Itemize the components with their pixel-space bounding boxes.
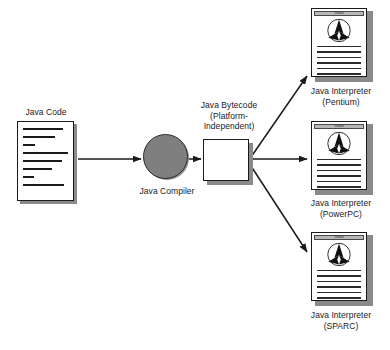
code-line	[23, 160, 62, 162]
window-title-bar: Window	[314, 235, 364, 240]
pentium-label-line1: Java Interpreter	[292, 86, 390, 97]
java-code-label: Java Code	[18, 107, 74, 118]
code-line	[23, 176, 34, 178]
java-bytecode-box	[203, 139, 253, 185]
code-line	[23, 136, 55, 138]
window-text-line	[317, 181, 361, 182]
window-title-bar: Window	[314, 124, 364, 129]
code-line	[23, 184, 64, 186]
java-bytecode-label: Java Bytecode (Platform- Independent)	[181, 100, 277, 132]
circle-body	[143, 134, 188, 179]
window-text-line	[317, 51, 361, 52]
window-text-line	[317, 281, 361, 282]
java-triangle-logo-icon	[325, 131, 353, 156]
window-text-line	[317, 164, 361, 165]
window-title-text: Window	[334, 236, 343, 240]
bytecode-label-line3: Independent)	[181, 121, 277, 132]
window-title-text: Window	[334, 125, 343, 129]
window-text-line	[317, 275, 361, 276]
java-triangle-logo-icon	[325, 18, 353, 43]
interpreter-pentium-label: Java Interpreter (Pentium)	[292, 86, 390, 107]
diagram-canvas: Java Code Java Compiler Java Bytecode (P…	[0, 0, 390, 350]
window-body: Window	[311, 8, 367, 77]
code-line	[23, 128, 63, 130]
sparc-label-line1: Java Interpreter	[292, 310, 390, 321]
window-text-line	[317, 286, 361, 287]
window-title-bar: Window	[314, 11, 364, 16]
interpreter-sparc-label: Java Interpreter (SPARC)	[292, 310, 390, 331]
window-text-line	[317, 186, 361, 187]
window-text-line	[317, 170, 361, 171]
window-title-text: Window	[334, 12, 343, 16]
window-text-line	[317, 62, 361, 63]
powerpc-label-line2: (PowerPC)	[292, 209, 390, 220]
java-code-document	[17, 121, 77, 204]
window-text-line	[317, 175, 361, 176]
powerpc-label-line1: Java Interpreter	[292, 198, 390, 209]
code-line	[23, 144, 35, 146]
java-compiler-label: Java Compiler	[124, 186, 210, 197]
interpreter-window-sparc: Window	[311, 232, 373, 306]
window-text-line	[317, 270, 361, 271]
interpreter-window-pentium: Window	[311, 8, 373, 82]
window-text-lines	[317, 159, 361, 192]
interpreter-window-powerpc: Window	[311, 121, 373, 195]
bytecode-label-line1: Java Bytecode	[181, 100, 277, 111]
code-line	[23, 152, 68, 154]
window-text-lines	[317, 270, 361, 303]
code-text-lines	[23, 128, 68, 192]
window-text-line	[317, 46, 361, 47]
window-text-line	[317, 159, 361, 160]
box-body	[203, 139, 249, 181]
window-text-line	[317, 68, 361, 69]
pentium-label-line2: (Pentium)	[292, 97, 390, 108]
window-text-line	[317, 57, 361, 58]
document-body	[17, 121, 74, 201]
code-line	[23, 168, 52, 170]
window-text-line	[317, 297, 361, 298]
window-body: Window	[311, 121, 367, 190]
interpreter-powerpc-label: Java Interpreter (PowerPC)	[292, 198, 390, 219]
window-body: Window	[311, 232, 367, 301]
sparc-label-line2: (SPARC)	[292, 321, 390, 332]
java-compiler-node	[143, 134, 189, 180]
window-text-line	[317, 292, 361, 293]
bytecode-label-line2: (Platform-	[181, 111, 277, 122]
window-text-lines	[317, 46, 361, 79]
window-text-line	[317, 73, 361, 74]
java-triangle-logo-icon	[325, 242, 353, 267]
